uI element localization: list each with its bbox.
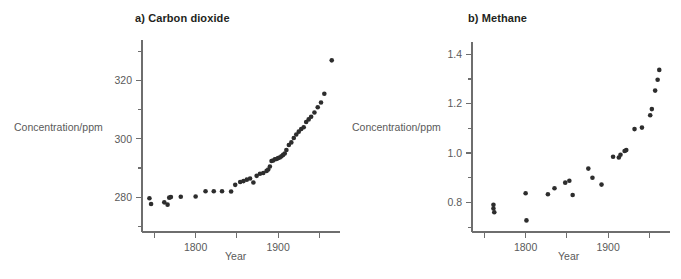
data-point — [329, 58, 334, 63]
data-point — [169, 195, 174, 200]
x-tick-label: 1800 — [514, 241, 538, 253]
data-point — [492, 210, 497, 215]
data-point — [301, 125, 306, 130]
data-point — [523, 191, 528, 196]
data-point — [211, 189, 216, 194]
data-point — [524, 218, 529, 223]
chart-panel-methane: b) Methane Concentration/ppm Year 0.81.0… — [350, 0, 681, 279]
data-point — [653, 88, 658, 93]
data-point — [220, 189, 225, 194]
data-point — [165, 202, 170, 207]
data-point-group — [491, 68, 661, 223]
data-point — [552, 186, 557, 191]
data-point — [648, 113, 653, 118]
data-point — [178, 195, 183, 200]
data-point — [149, 202, 154, 207]
data-point — [570, 193, 575, 198]
data-point — [229, 189, 234, 194]
data-point — [618, 152, 623, 157]
data-point — [650, 107, 655, 112]
data-point — [315, 105, 320, 110]
y-tick-label: 300 — [114, 133, 132, 145]
data-point — [567, 178, 572, 183]
data-point-group — [147, 58, 334, 207]
data-point — [312, 110, 317, 115]
data-point — [284, 148, 289, 153]
data-point — [193, 194, 198, 199]
scatter-plot-carbon-dioxide: 28030032018001900 — [0, 0, 350, 279]
data-point — [563, 180, 568, 185]
data-point — [248, 176, 253, 181]
data-point — [203, 189, 208, 194]
data-point — [268, 164, 273, 169]
data-point — [611, 154, 616, 159]
data-point — [590, 175, 595, 180]
x-tick-label: 1900 — [266, 241, 290, 253]
data-point — [322, 92, 327, 97]
data-point — [599, 182, 604, 187]
data-point — [632, 127, 637, 132]
chart-panel-carbon-dioxide: a) Carbon dioxide Concentration/ppm Year… — [0, 0, 350, 279]
x-tick-label: 1900 — [596, 241, 620, 253]
data-point — [640, 125, 645, 130]
x-tick-label: 1800 — [184, 241, 208, 253]
figure-greenhouse-gas-concentrations: a) Carbon dioxide Concentration/ppm Year… — [0, 0, 681, 279]
data-point — [546, 192, 551, 197]
data-point — [624, 148, 629, 153]
data-point — [147, 196, 152, 201]
scatter-plot-methane: 0.81.01.21.418001900 — [350, 0, 681, 279]
data-point — [655, 77, 660, 82]
data-point — [289, 140, 294, 145]
data-point — [251, 180, 256, 185]
y-tick-label: 0.8 — [447, 196, 462, 208]
data-point — [233, 183, 238, 188]
y-tick-label: 1.4 — [447, 48, 462, 60]
data-point — [657, 68, 662, 73]
data-point — [309, 115, 314, 120]
data-point — [319, 100, 324, 105]
y-tick-label: 1.0 — [447, 147, 462, 159]
y-tick-label: 280 — [114, 191, 132, 203]
data-point — [586, 166, 591, 171]
y-tick-label: 320 — [114, 74, 132, 86]
y-tick-label: 1.2 — [447, 97, 462, 109]
